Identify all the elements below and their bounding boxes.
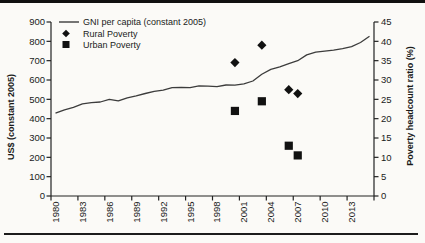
right-axis-tick-label: 15 — [381, 132, 392, 143]
legend-label-gni: GNI per capita (constant 2005) — [83, 17, 206, 27]
urban-poverty-point — [258, 97, 266, 105]
gni-poverty-chart: 0100200300400500600700800900051015202530… — [0, 0, 425, 243]
x-axis-tick-label: 2004 — [265, 202, 276, 223]
x-axis-tick-label: 1989 — [131, 202, 142, 223]
x-axis-tick-label: 2013 — [346, 202, 357, 223]
x-axis-tick-label: 1980 — [50, 202, 61, 223]
urban-poverty-point — [294, 151, 302, 159]
right-axis-tick-label: 45 — [381, 16, 392, 27]
bottom-rule — [4, 233, 418, 235]
right-axis-tick-label: 30 — [381, 74, 392, 85]
legend-square-swatch — [63, 41, 70, 48]
left-axis-tick-label: 600 — [29, 74, 45, 85]
left-axis-tick-label: 500 — [29, 94, 45, 105]
right-axis-title: Poverty headcount ratio (%) — [405, 46, 415, 166]
left-axis-tick-label: 200 — [29, 152, 45, 163]
rural-poverty-point — [257, 41, 266, 50]
urban-poverty-point — [285, 142, 293, 150]
rural-poverty-point — [230, 58, 239, 67]
right-axis-tick-label: 10 — [381, 152, 392, 163]
rural-poverty-point — [293, 89, 302, 98]
right-axis-tick-label: 25 — [381, 94, 392, 105]
scanned-figure: 0100200300400500600700800900051015202530… — [0, 0, 425, 243]
x-axis-tick-label: 1995 — [185, 202, 196, 223]
right-axis-tick-label: 35 — [381, 55, 392, 66]
legend-label-rural: Rural Poverty — [83, 29, 138, 39]
x-axis-tick-label: 1983 — [77, 202, 88, 223]
left-axis-tick-label: 800 — [29, 36, 45, 47]
x-axis-tick-label: 1992 — [158, 202, 169, 223]
left-axis-tick-label: 700 — [29, 55, 45, 66]
right-axis-tick-label: 0 — [381, 190, 386, 201]
left-axis-tick-label: 100 — [29, 171, 45, 182]
legend-label-urban: Urban Poverty — [83, 40, 141, 50]
x-axis-tick-label: 1998 — [211, 202, 222, 223]
legend-diamond-swatch — [62, 30, 70, 38]
left-axis-title: US$ (constant 2005) — [6, 74, 16, 160]
x-axis-tick-label: 2007 — [292, 202, 303, 223]
right-axis-tick-label: 20 — [381, 113, 392, 124]
left-axis-tick-label: 0 — [40, 190, 45, 201]
right-axis-tick-label: 5 — [381, 171, 386, 182]
left-axis-tick-label: 400 — [29, 113, 45, 124]
right-axis-tick-label: 40 — [381, 36, 392, 47]
left-axis-tick-label: 900 — [29, 16, 45, 27]
x-axis-tick-label: 2001 — [238, 202, 249, 223]
x-axis-tick-label: 2010 — [319, 202, 330, 223]
left-axis-tick-label: 300 — [29, 132, 45, 143]
urban-poverty-point — [231, 107, 239, 115]
x-axis-tick-label: 1986 — [104, 202, 115, 223]
rural-poverty-point — [284, 85, 293, 94]
